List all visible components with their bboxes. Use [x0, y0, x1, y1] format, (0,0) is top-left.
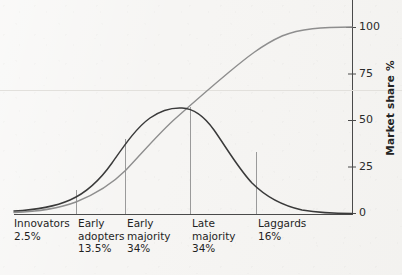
category-percent: 13.5%	[78, 242, 125, 255]
category-label-early-adopters: Early adopters 13.5%	[78, 217, 125, 255]
y-tick-label-100: 100	[359, 21, 380, 32]
category-label-late-majority: Late majority 34%	[192, 217, 236, 255]
category-label-row: Innovators 2.5% Early adopters 13.5% Ear…	[0, 217, 402, 275]
category-label-innovators: Innovators 2.5%	[14, 217, 70, 242]
category-name-cont: adopters	[78, 230, 125, 243]
category-name: Early	[78, 217, 125, 230]
y-axis-title: Market share %	[384, 60, 396, 155]
category-percent: 34%	[127, 242, 171, 255]
category-name-cont: majority	[127, 230, 171, 243]
category-name-cont: majority	[192, 230, 236, 243]
category-divider-lines	[77, 107, 257, 214]
y-tick-label-75: 75	[359, 68, 373, 79]
adoption-lifecycle-chart: 100 75 50 25 0 Market share % Innovators…	[0, 0, 402, 275]
y-axis-title-wrapper: Market share %	[378, 0, 402, 215]
y-tick-label-25: 25	[359, 161, 373, 172]
cumulative-s-curve	[14, 27, 352, 213]
category-percent: 34%	[192, 242, 236, 255]
category-label-early-majority: Early majority 34%	[127, 217, 171, 255]
category-percent: 16%	[258, 230, 306, 243]
category-name: Late	[192, 217, 236, 230]
category-name: Innovators	[14, 217, 70, 230]
y-tick-label-50: 50	[359, 114, 373, 125]
adoption-bell-curve	[14, 108, 352, 214]
y-axis-ticks	[346, 28, 356, 214]
category-percent: 2.5%	[14, 230, 70, 243]
category-label-laggards: Laggards 16%	[258, 217, 306, 242]
category-name: Early	[127, 217, 171, 230]
category-name: Laggards	[258, 217, 306, 230]
